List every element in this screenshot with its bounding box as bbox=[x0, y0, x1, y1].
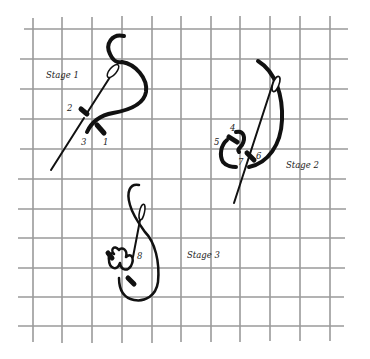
point-label-3: 3 bbox=[81, 137, 86, 147]
stitch-diagram: Stage 1 2 3 1 Stage 2 4 5 6 7 Stage 3 bbox=[0, 0, 370, 359]
stage-3: Stage 3 8 bbox=[108, 185, 220, 301]
stage-1-needle-eye bbox=[105, 63, 121, 80]
stage-1: Stage 1 2 3 1 bbox=[46, 35, 146, 170]
stage-3-mark-bottom bbox=[128, 278, 134, 284]
point-label-8: 8 bbox=[137, 251, 143, 261]
point-label-7: 7 bbox=[238, 157, 244, 167]
stage-2: Stage 2 4 5 6 7 bbox=[214, 61, 319, 203]
stage-2-label: Stage 2 bbox=[286, 160, 319, 170]
stage-3-needle-eye bbox=[138, 204, 146, 221]
stage-1-thread bbox=[87, 35, 146, 132]
stage-1-point-2-mark bbox=[81, 109, 87, 114]
stage-3-label: Stage 3 bbox=[187, 250, 220, 260]
grid bbox=[18, 16, 348, 343]
point-label-6: 6 bbox=[256, 151, 262, 161]
point-label-5: 5 bbox=[214, 137, 219, 147]
stage-2-point-4-mark bbox=[229, 137, 237, 142]
stage-1-label: Stage 1 bbox=[46, 70, 79, 80]
stage-3-mark-arrow bbox=[108, 253, 112, 258]
point-label-1: 1 bbox=[103, 137, 108, 147]
stage-2-thread-hook bbox=[221, 140, 236, 167]
point-label-4: 4 bbox=[229, 123, 235, 133]
stage-1-point-1-mark bbox=[97, 125, 104, 133]
point-label-2: 2 bbox=[66, 103, 72, 113]
